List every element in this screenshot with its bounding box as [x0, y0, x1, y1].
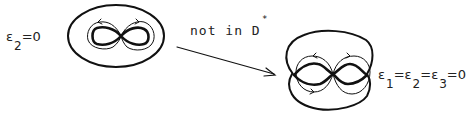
equals-zero: =0 [22, 29, 41, 44]
right-loop-arrow-top-right [346, 53, 350, 58]
right-thin-loop-left [296, 56, 333, 92]
epsilon-3: ε [431, 67, 438, 82]
transition-note: not in D [190, 23, 261, 38]
right-condition-label: ε1=ε2=ε3=0 [378, 68, 466, 81]
equals-zero-3: =0 [447, 67, 466, 82]
epsilon-1: ε [378, 67, 385, 82]
right-thin-loop-right [333, 56, 370, 94]
subscript-3: 3 [439, 77, 447, 91]
right-loop-arrow-top-left [313, 53, 317, 58]
left-condition-label: ε2=0 [6, 30, 41, 43]
equals-2: = [420, 67, 431, 82]
subscript-1: 1 [386, 77, 394, 91]
subscript: 2 [14, 39, 22, 53]
epsilon-2: ε [405, 67, 412, 82]
transition-arrow [177, 47, 275, 76]
equals-1: = [394, 67, 405, 82]
subscript-2: 2 [413, 77, 421, 91]
left-figure [68, 5, 164, 67]
transition-text: not in D [190, 23, 261, 38]
epsilon-symbol: ε [6, 29, 13, 44]
transition-superscript: * [262, 14, 267, 24]
right-bottom-lobe [289, 74, 370, 110]
right-figure [286, 31, 372, 110]
